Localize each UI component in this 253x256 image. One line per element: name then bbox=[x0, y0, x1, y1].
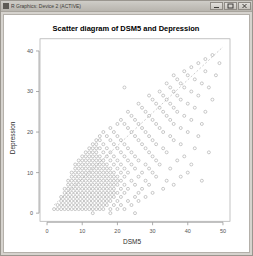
data-point bbox=[112, 131, 115, 134]
data-point bbox=[155, 122, 158, 125]
data-point bbox=[123, 175, 126, 178]
data-point bbox=[91, 187, 94, 190]
data-point bbox=[162, 131, 165, 134]
data-point bbox=[116, 183, 119, 186]
data-point bbox=[105, 200, 108, 203]
data-point bbox=[77, 204, 80, 207]
data-point bbox=[105, 171, 108, 174]
data-point bbox=[109, 171, 112, 174]
data-point bbox=[70, 195, 73, 198]
data-point bbox=[116, 147, 119, 150]
data-point bbox=[102, 167, 105, 170]
data-point bbox=[81, 183, 84, 186]
data-point bbox=[63, 191, 66, 194]
data-point bbox=[137, 159, 140, 162]
data-point bbox=[176, 110, 179, 113]
data-point bbox=[183, 114, 186, 117]
data-point bbox=[84, 163, 87, 166]
data-point bbox=[112, 204, 115, 207]
data-point bbox=[186, 74, 189, 77]
data-point bbox=[95, 151, 98, 154]
data-point bbox=[141, 106, 144, 109]
data-point bbox=[186, 102, 189, 105]
data-point bbox=[179, 175, 182, 178]
data-point bbox=[109, 183, 112, 186]
data-point bbox=[60, 208, 63, 211]
data-point bbox=[102, 204, 105, 207]
data-point bbox=[207, 86, 210, 89]
data-point bbox=[74, 208, 77, 211]
data-point bbox=[151, 118, 154, 121]
data-point bbox=[109, 200, 112, 203]
data-point bbox=[126, 159, 129, 162]
data-point bbox=[88, 195, 91, 198]
data-point bbox=[112, 183, 115, 186]
data-point bbox=[109, 195, 112, 198]
minimize-button[interactable] bbox=[210, 2, 223, 10]
data-point bbox=[123, 122, 126, 125]
data-point bbox=[95, 204, 98, 207]
data-point bbox=[91, 171, 94, 174]
data-point bbox=[67, 208, 70, 211]
data-point bbox=[116, 191, 119, 194]
y-axis-tick-label: 10 bbox=[27, 170, 33, 176]
data-point bbox=[197, 135, 200, 138]
data-point bbox=[98, 208, 101, 211]
data-point bbox=[105, 163, 108, 166]
data-point bbox=[155, 102, 158, 105]
data-point bbox=[91, 143, 94, 146]
data-point bbox=[130, 179, 133, 182]
data-point bbox=[102, 183, 105, 186]
maximize-button[interactable] bbox=[224, 2, 237, 10]
data-point bbox=[197, 94, 200, 97]
data-point bbox=[98, 175, 101, 178]
data-point bbox=[144, 147, 147, 150]
data-point bbox=[84, 155, 87, 158]
data-point bbox=[102, 208, 105, 211]
data-point bbox=[70, 175, 73, 178]
window-title: R Graphics: Device 2 (ACTIVE) bbox=[11, 3, 208, 9]
data-point bbox=[91, 208, 94, 211]
data-point bbox=[148, 151, 151, 154]
data-point bbox=[56, 204, 59, 207]
data-point bbox=[102, 195, 105, 198]
close-button[interactable] bbox=[238, 2, 251, 10]
data-point bbox=[95, 191, 98, 194]
data-point bbox=[105, 135, 108, 138]
x-axis-tick-label: 40 bbox=[185, 228, 191, 234]
data-point bbox=[183, 155, 186, 158]
data-point bbox=[74, 187, 77, 190]
data-point bbox=[91, 175, 94, 178]
data-point bbox=[91, 191, 94, 194]
data-point bbox=[186, 171, 189, 174]
data-point bbox=[148, 114, 151, 117]
x-axis-label: DSM5 bbox=[123, 238, 141, 245]
data-point bbox=[84, 204, 87, 207]
data-point bbox=[77, 159, 80, 162]
data-point bbox=[102, 175, 105, 178]
data-point bbox=[137, 200, 140, 203]
data-point bbox=[200, 82, 203, 85]
data-point bbox=[105, 183, 108, 186]
data-point bbox=[91, 195, 94, 198]
data-point bbox=[144, 131, 147, 134]
data-point bbox=[162, 94, 165, 97]
data-point bbox=[105, 167, 108, 170]
data-point bbox=[88, 159, 91, 162]
data-point bbox=[88, 204, 91, 207]
window-titlebar[interactable]: R Graphics: Device 2 (ACTIVE) bbox=[1, 1, 252, 12]
data-point bbox=[137, 139, 140, 142]
data-point bbox=[119, 151, 122, 154]
data-point bbox=[134, 135, 137, 138]
data-point bbox=[112, 179, 115, 182]
data-point bbox=[123, 86, 126, 89]
data-point bbox=[141, 171, 144, 174]
data-point bbox=[144, 195, 147, 198]
data-point bbox=[119, 195, 122, 198]
data-points bbox=[53, 54, 221, 215]
data-point bbox=[112, 195, 115, 198]
data-point bbox=[137, 191, 140, 194]
data-point bbox=[74, 171, 77, 174]
data-point bbox=[63, 204, 66, 207]
data-point bbox=[109, 191, 112, 194]
